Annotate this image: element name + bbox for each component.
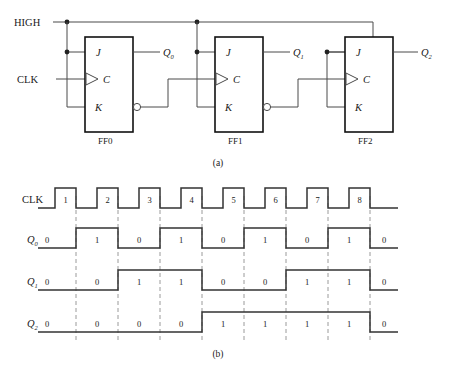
ff0-qbar-to-ff1-clock bbox=[141, 79, 215, 107]
figure-asynchronous-counter: HIGH CLK J C K Q0 bbox=[0, 0, 449, 368]
bit-q0-3: 1 bbox=[179, 235, 183, 245]
bit-q2-7: 1 bbox=[347, 319, 351, 329]
flipflop-ff2: J C K Q2 FF2 bbox=[325, 22, 433, 146]
timing-waveforms bbox=[38, 188, 398, 332]
flipflop-ff1: J C K Q1 FF1 bbox=[195, 22, 345, 146]
bit-q0-5: 1 bbox=[263, 235, 267, 245]
caption-a: (a) bbox=[213, 158, 224, 169]
bit-q1-2: 1 bbox=[137, 277, 141, 287]
ff1-q-label: Q1 bbox=[293, 47, 304, 60]
bit-q1-8: 0 bbox=[382, 277, 386, 287]
junction-dot-ff2-j bbox=[325, 50, 330, 55]
bit-q2-8: 0 bbox=[382, 319, 386, 329]
clock-pulse-number-3: 3 bbox=[147, 195, 151, 205]
junction-dot-ff0-j bbox=[65, 50, 70, 55]
clock-pulse-number-4: 4 bbox=[189, 195, 194, 205]
ff2-c-label: C bbox=[363, 74, 371, 85]
bit-q2-1: 0 bbox=[95, 319, 99, 329]
ff1-k-feed bbox=[197, 22, 215, 107]
clock-pulse-number-8: 8 bbox=[357, 195, 361, 205]
bit-q0-4: 0 bbox=[221, 235, 225, 245]
bit-q2-3: 0 bbox=[179, 319, 183, 329]
waveform-q2 bbox=[38, 312, 398, 332]
ff1-qbar-bubble-icon bbox=[263, 103, 270, 110]
ff0-k-feed bbox=[67, 22, 85, 107]
ff1-c-label: C bbox=[233, 74, 241, 85]
bit-q1-6: 1 bbox=[305, 277, 309, 287]
ff0-k-label: K bbox=[94, 102, 103, 113]
ff2-q-label: Q2 bbox=[421, 47, 433, 60]
clock-pulse-number-7: 7 bbox=[315, 195, 319, 205]
ff1-k-label: K bbox=[224, 102, 233, 113]
junction-dot-ff1-j bbox=[195, 50, 200, 55]
bit-q1-5: 0 bbox=[263, 277, 267, 287]
timing-q2-label: Q2 bbox=[27, 318, 39, 331]
timing-clock-label: CLK bbox=[22, 194, 43, 205]
bit-q1-initial: 0 bbox=[45, 277, 49, 287]
timing-value-labels: 12345678010101010001100110000011110 bbox=[45, 195, 386, 329]
bit-q2-2: 0 bbox=[137, 319, 141, 329]
ff0-q-label: Q0 bbox=[163, 47, 175, 60]
clock-pulse-number-5: 5 bbox=[231, 195, 235, 205]
waveform-q1 bbox=[38, 270, 398, 290]
bit-q0-7: 1 bbox=[347, 235, 351, 245]
bit-q2-5: 1 bbox=[263, 319, 267, 329]
ff0-c-label: C bbox=[103, 74, 111, 85]
ff2-name: FF2 bbox=[358, 136, 373, 146]
ff1-name: FF1 bbox=[228, 136, 243, 146]
clock-input-label: CLK bbox=[17, 74, 38, 85]
bit-q2-6: 1 bbox=[305, 319, 309, 329]
bit-q1-4: 0 bbox=[221, 277, 225, 287]
circuit-diagram: HIGH CLK J C K Q0 bbox=[14, 17, 433, 169]
ff0-qbar-bubble-icon bbox=[133, 103, 140, 110]
bit-q0-2: 0 bbox=[137, 235, 141, 245]
waveform-clk bbox=[38, 188, 398, 208]
bit-q1-3: 1 bbox=[179, 277, 183, 287]
clock-pulse-number-1: 1 bbox=[63, 195, 67, 205]
caption-b: (b) bbox=[212, 349, 223, 360]
bit-q0-8: 0 bbox=[382, 235, 386, 245]
bit-q0-1: 1 bbox=[95, 235, 99, 245]
waveform-q0 bbox=[38, 228, 398, 248]
clock-pulse-number-6: 6 bbox=[273, 195, 277, 205]
bit-q2-initial: 0 bbox=[45, 319, 49, 329]
timing-diagram: CLK Q0 Q1 Q2 123456780101010100011001100… bbox=[22, 188, 398, 360]
bit-q1-1: 0 bbox=[95, 277, 99, 287]
timing-q1-label: Q1 bbox=[27, 276, 38, 289]
ff0-name: FF0 bbox=[98, 136, 113, 146]
bit-q0-6: 0 bbox=[305, 235, 309, 245]
clock-pulse-number-2: 2 bbox=[105, 195, 109, 205]
timing-q0-label: Q0 bbox=[27, 234, 39, 247]
figure-canvas: HIGH CLK J C K Q0 bbox=[0, 0, 449, 368]
flipflop-ff0: CLK J C K Q0 FF0 bbox=[17, 22, 215, 146]
ff1-qbar-to-ff2-clock bbox=[271, 79, 345, 107]
bit-q0-initial: 0 bbox=[45, 235, 49, 245]
supply-label: HIGH bbox=[14, 17, 41, 28]
bit-q2-4: 1 bbox=[221, 319, 225, 329]
bit-q1-7: 1 bbox=[347, 277, 351, 287]
ff2-k-label: K bbox=[354, 102, 363, 113]
